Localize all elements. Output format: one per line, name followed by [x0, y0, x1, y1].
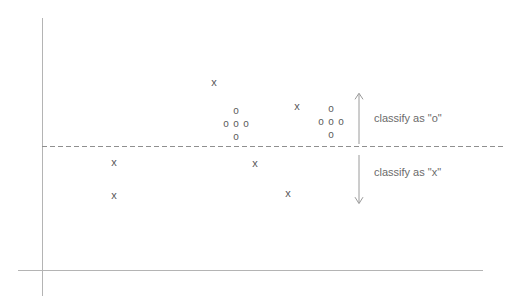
data-point-x: x	[111, 190, 117, 201]
plot-svg	[0, 0, 505, 306]
data-point-cluster-o: o o o o o	[314, 104, 348, 140]
data-point-o: o	[233, 106, 239, 116]
data-point-o: o	[243, 119, 249, 129]
arrow-up-icon	[355, 93, 363, 144]
data-point-o: o	[318, 117, 324, 127]
classify-as-o-label: classify as "o"	[374, 113, 442, 124]
data-point-x: x	[111, 157, 117, 168]
arrow-down-icon	[355, 155, 363, 204]
data-point-o: o	[328, 117, 334, 127]
data-point-o: o	[328, 130, 334, 140]
data-point-x: x	[294, 101, 300, 112]
data-point-o: o	[328, 104, 334, 114]
classify-as-x-label: classify as "x"	[374, 167, 441, 178]
data-point-o: o	[233, 132, 239, 142]
data-point-o: o	[338, 117, 344, 127]
figure-canvas: x x x x x x o o o o o o o o o o classify…	[0, 0, 505, 306]
data-point-x: x	[211, 77, 217, 88]
data-point-o: o	[233, 119, 239, 129]
data-point-o: o	[223, 119, 229, 129]
data-point-cluster-o: o o o o o	[219, 106, 253, 142]
data-point-x: x	[285, 188, 291, 199]
data-point-x: x	[252, 158, 258, 169]
